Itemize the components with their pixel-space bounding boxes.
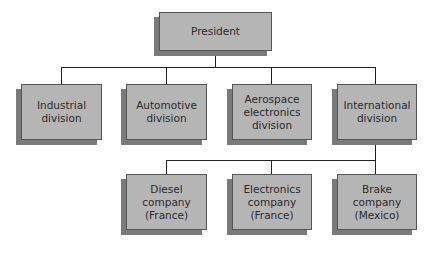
electronics-drop — [271, 160, 272, 174]
node-brake-company: Brake company (Mexico) — [337, 174, 417, 230]
international-stem — [375, 140, 376, 174]
division-bus — [61, 67, 376, 68]
aerospace-drop — [271, 67, 272, 84]
node-automotive-division: Automotive division — [126, 84, 207, 140]
node-president: President — [159, 12, 272, 51]
node-label-diesel: Diesel company (France) — [126, 174, 207, 230]
international-drop — [375, 67, 376, 84]
node-electronics-company: Electronics company (France) — [232, 174, 312, 230]
node-aerospace-division: Aerospace electronics division — [232, 84, 312, 140]
industrial-drop — [61, 67, 62, 84]
node-label-automotive: Automotive division — [126, 84, 207, 140]
node-label-electronics: Electronics company (France) — [232, 174, 312, 230]
node-label-industrial: Industrial division — [21, 84, 102, 140]
diesel-drop — [166, 160, 167, 174]
node-label-international: International division — [337, 84, 417, 140]
node-label-aerospace: Aerospace electronics division — [232, 84, 312, 140]
node-industrial-division: Industrial division — [21, 84, 102, 140]
node-international-division: International division — [337, 84, 417, 140]
node-diesel-company: Diesel company (France) — [126, 174, 207, 230]
node-label-president: President — [159, 12, 272, 51]
node-label-brake: Brake company (Mexico) — [337, 174, 417, 230]
automotive-drop — [166, 67, 167, 84]
